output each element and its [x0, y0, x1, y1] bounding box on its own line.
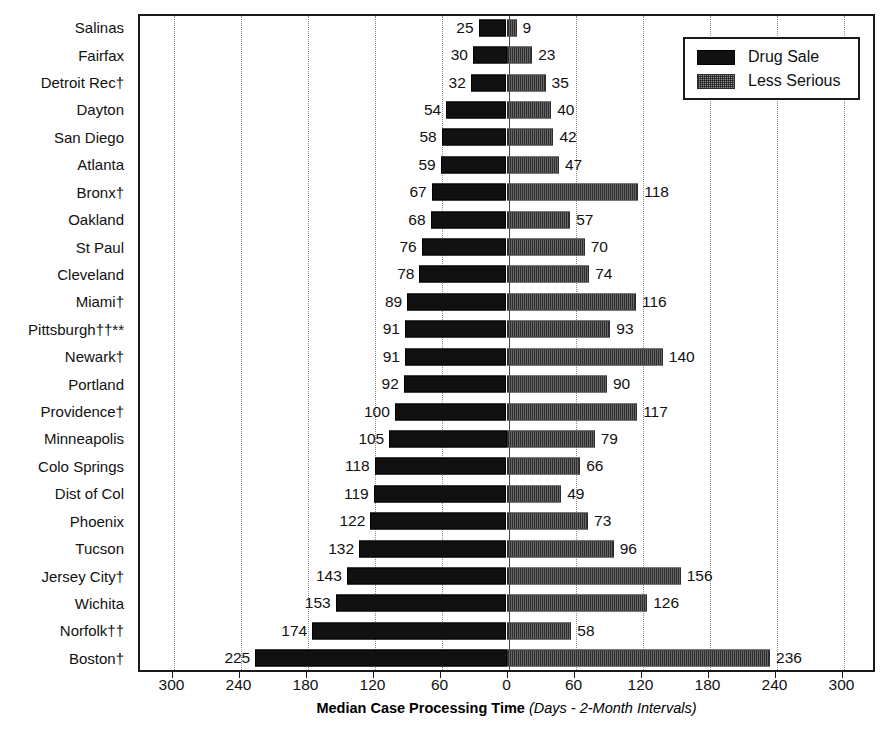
bar-value-drug-sale: 174 — [281, 623, 307, 639]
bar-drug-sale — [359, 540, 506, 557]
bar-value-drug-sale: 25 — [456, 20, 473, 36]
y-axis-label: Boston† — [0, 645, 131, 672]
y-axis-label: Fairfax — [0, 41, 131, 68]
bar-value-less-serious: 49 — [567, 486, 584, 502]
bar-value-drug-sale: 119 — [344, 486, 369, 502]
chart-row: 17458 — [138, 617, 875, 644]
chart-row: 100117 — [138, 398, 875, 425]
chart-row: 11866 — [138, 453, 875, 480]
bar-less-serious — [507, 239, 585, 256]
chart-legend: Drug Sale Less Serious — [683, 37, 860, 100]
bar-drug-sale — [336, 595, 507, 612]
bar-drug-sale — [441, 156, 507, 173]
bar-value-drug-sale: 100 — [364, 404, 390, 420]
chart-row: 5947 — [138, 151, 875, 178]
legend-item-drug-sale: Drug Sale — [697, 45, 858, 69]
bar-value-less-serious: 47 — [565, 157, 582, 173]
bar-less-serious — [507, 293, 637, 310]
diverging-bar-chart: SalinasFairfaxDetroit Rec†DaytonSan Dieg… — [0, 0, 890, 737]
bar-value-less-serious: 9 — [523, 20, 532, 36]
bar-less-serious — [507, 129, 554, 146]
bar-value-drug-sale: 153 — [305, 596, 331, 612]
legend-item-less-serious: Less Serious — [697, 69, 858, 93]
bar-value-drug-sale: 91 — [383, 322, 400, 338]
bar-less-serious — [507, 595, 648, 612]
bar-value-less-serious: 74 — [595, 267, 612, 283]
chart-row: 143156 — [138, 562, 875, 589]
bar-value-less-serious: 58 — [577, 623, 594, 639]
drug-sale-swatch-icon — [697, 50, 735, 65]
x-axis-title-main: Median Case Processing Time — [316, 700, 524, 716]
less-serious-swatch-icon — [697, 74, 735, 89]
chart-row: 12273 — [138, 508, 875, 535]
chart-row: 225236 — [138, 645, 875, 672]
bar-less-serious — [507, 321, 611, 338]
bar-drug-sale — [422, 239, 507, 256]
bar-value-drug-sale: 122 — [339, 513, 365, 529]
x-tick-label: 180 — [695, 676, 721, 694]
bar-value-less-serious: 35 — [552, 75, 569, 91]
y-axis-label: St Paul — [0, 233, 131, 260]
bar-value-less-serious: 96 — [620, 541, 637, 557]
bar-less-serious — [507, 156, 559, 173]
chart-row: 7670 — [138, 233, 875, 260]
bar-drug-sale — [479, 19, 507, 36]
bar-value-less-serious: 118 — [644, 184, 669, 200]
x-tick-label: 180 — [293, 676, 319, 694]
x-tick-label: 0 — [502, 676, 511, 694]
bar-value-drug-sale: 132 — [328, 541, 354, 557]
bar-value-drug-sale: 58 — [419, 130, 436, 146]
y-axis-category-labels: SalinasFairfaxDetroit Rec†DaytonSan Dieg… — [0, 14, 131, 672]
chart-row: 67118 — [138, 179, 875, 206]
y-axis-label: Miami† — [0, 288, 131, 315]
bar-drug-sale — [404, 376, 507, 393]
x-axis-tick-labels: 30024018012060060120180240300 — [138, 676, 875, 698]
bar-value-drug-sale: 68 — [408, 212, 425, 228]
bar-drug-sale — [446, 101, 506, 118]
bar-value-less-serious: 79 — [601, 431, 618, 447]
bar-less-serious — [507, 430, 595, 447]
bar-drug-sale — [405, 348, 507, 365]
bar-less-serious — [507, 622, 572, 639]
y-axis-label: Jersey City† — [0, 562, 131, 589]
bar-value-drug-sale: 105 — [358, 431, 384, 447]
bar-value-less-serious: 93 — [616, 322, 633, 338]
bar-drug-sale — [370, 513, 506, 530]
bar-value-less-serious: 40 — [557, 102, 574, 118]
bar-value-drug-sale: 67 — [409, 184, 426, 200]
y-axis-label: Dayton — [0, 96, 131, 123]
bar-less-serious — [507, 568, 681, 585]
bar-less-serious — [507, 376, 608, 393]
bar-value-less-serious: 140 — [669, 349, 695, 365]
bar-value-drug-sale: 92 — [382, 376, 399, 392]
bar-drug-sale — [312, 622, 506, 639]
bar-drug-sale — [419, 266, 506, 283]
chart-row: 91140 — [138, 343, 875, 370]
chart-row: 89116 — [138, 288, 875, 315]
bar-value-drug-sale: 89 — [385, 294, 402, 310]
bar-less-serious — [507, 485, 562, 502]
legend-label-less-serious: Less Serious — [748, 72, 841, 90]
bar-value-less-serious: 73 — [594, 513, 611, 529]
bar-less-serious — [507, 184, 639, 201]
chart-row: 9193 — [138, 316, 875, 343]
bar-value-drug-sale: 118 — [345, 459, 370, 475]
bar-less-serious — [507, 458, 581, 475]
x-tick-label: 240 — [762, 676, 788, 694]
bar-value-less-serious: 236 — [776, 651, 802, 667]
bar-drug-sale — [432, 184, 507, 201]
bar-less-serious — [507, 540, 614, 557]
chart-row: 11949 — [138, 480, 875, 507]
bar-value-less-serious: 70 — [591, 239, 608, 255]
chart-row: 5842 — [138, 124, 875, 151]
x-tick-label: 300 — [159, 676, 185, 694]
x-tick-label: 300 — [829, 676, 855, 694]
bar-value-drug-sale: 54 — [424, 102, 441, 118]
bar-value-less-serious: 57 — [576, 212, 593, 228]
chart-row: 5440 — [138, 96, 875, 123]
bar-drug-sale — [395, 403, 507, 420]
y-axis-label: Providence† — [0, 398, 131, 425]
x-tick-label: 60 — [565, 676, 582, 694]
y-axis-label: Salinas — [0, 14, 131, 41]
bar-value-drug-sale: 32 — [449, 75, 466, 91]
